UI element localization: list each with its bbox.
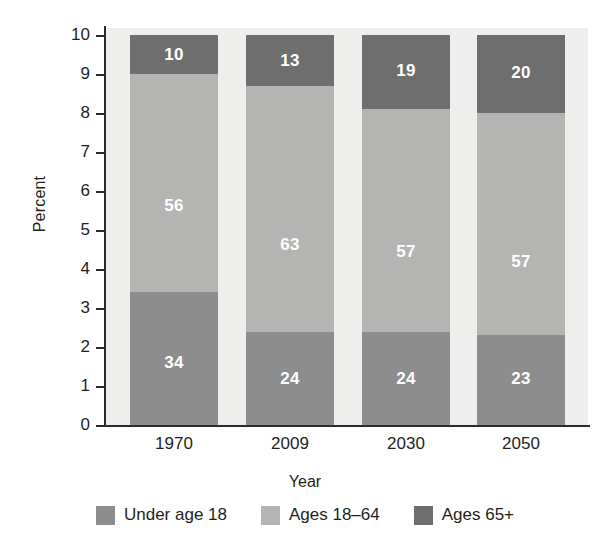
bar-value-label-ages18to64: 56	[130, 197, 218, 214]
bar-segment-under18[interactable]: 34	[130, 292, 218, 425]
y-tick-mark-10	[96, 35, 105, 37]
chart-legend: Under age 18 Ages 18–64 Ages 65+	[0, 505, 610, 525]
bar-segment-ages18to64[interactable]: 57	[362, 109, 450, 332]
y-tick-label-9: 9	[50, 65, 90, 82]
x-tick-label-1970: 1970	[114, 434, 234, 454]
bar-1970[interactable]: 10 56 34	[130, 35, 218, 425]
legend-label-ages-18-64: Ages 18–64	[289, 505, 380, 525]
bar-value-label-under18: 23	[477, 370, 565, 387]
y-tick-mark-9	[96, 74, 105, 76]
x-tick-label-2030: 2030	[346, 434, 466, 454]
y-tick-mark-6	[96, 191, 105, 193]
legend-swatch-icon-under-age-18	[96, 506, 115, 525]
bar-segment-ages65plus[interactable]: 13	[246, 35, 334, 86]
bar-segment-under18[interactable]: 23	[477, 335, 565, 425]
bar-value-label-ages65plus: 10	[130, 46, 218, 63]
x-tick-label-2009: 2009	[230, 434, 350, 454]
y-tick-label-8: 8	[50, 104, 90, 121]
stacked-bar-chart: Percent 10 9 8 7 6 5 4 3 2 1 0 10 56 34	[0, 0, 610, 543]
legend-swatch-icon-ages-18-64	[261, 506, 280, 525]
y-tick-mark-5	[96, 230, 105, 232]
y-tick-mark-1	[96, 386, 105, 388]
y-tick-label-3: 3	[50, 299, 90, 316]
y-tick-mark-3	[96, 308, 105, 310]
bar-2030[interactable]: 19 57 24	[362, 35, 450, 425]
y-axis-line	[104, 26, 106, 427]
y-axis-title: Percent	[31, 164, 49, 244]
legend-swatch-icon-ages-65-plus	[414, 506, 433, 525]
bar-segment-ages65plus[interactable]: 20	[477, 35, 565, 113]
bar-segment-under18[interactable]: 24	[246, 332, 334, 425]
legend-label-ages-65-plus: Ages 65+	[442, 505, 514, 525]
bar-value-label-under18: 24	[362, 370, 450, 387]
y-tick-mark-8	[96, 113, 105, 115]
y-tick-label-10: 10	[50, 26, 90, 43]
y-tick-label-7: 7	[50, 143, 90, 160]
bar-segment-ages65plus[interactable]: 10	[130, 35, 218, 74]
y-tick-label-4: 4	[50, 260, 90, 277]
bar-value-label-ages65plus: 19	[362, 62, 450, 79]
bar-value-label-under18: 24	[246, 370, 334, 387]
y-tick-mark-2	[96, 347, 105, 349]
y-tick-label-2: 2	[50, 338, 90, 355]
bar-segment-ages18to64[interactable]: 56	[130, 74, 218, 292]
bar-segment-under18[interactable]: 24	[362, 332, 450, 425]
y-tick-mark-4	[96, 269, 105, 271]
bar-2009[interactable]: 13 63 24	[246, 35, 334, 425]
bar-value-label-ages18to64: 63	[246, 236, 334, 253]
legend-label-under-age-18: Under age 18	[124, 505, 227, 525]
legend-item-ages-65-plus[interactable]: Ages 65+	[414, 505, 514, 525]
x-tick-label-2050: 2050	[461, 434, 581, 454]
bar-value-label-under18: 34	[130, 354, 218, 371]
x-axis-title: Year	[0, 473, 610, 491]
bar-value-label-ages65plus: 13	[246, 52, 334, 69]
y-tick-label-1: 1	[50, 377, 90, 394]
legend-item-ages-18-64[interactable]: Ages 18–64	[261, 505, 380, 525]
bar-segment-ages65plus[interactable]: 19	[362, 35, 450, 109]
legend-item-under-age-18[interactable]: Under age 18	[96, 505, 227, 525]
x-axis-line	[104, 425, 590, 427]
bar-value-label-ages65plus: 20	[477, 64, 565, 81]
bar-segment-ages18to64[interactable]: 57	[477, 113, 565, 335]
y-tick-label-0: 0	[50, 416, 90, 433]
bar-value-label-ages18to64: 57	[477, 253, 565, 270]
bar-2050[interactable]: 20 57 23	[477, 35, 565, 425]
y-tick-label-5: 5	[50, 221, 90, 238]
y-tick-mark-7	[96, 152, 105, 154]
bar-segment-ages18to64[interactable]: 63	[246, 86, 334, 332]
y-tick-label-6: 6	[50, 182, 90, 199]
bar-value-label-ages18to64: 57	[362, 243, 450, 260]
y-tick-mark-0	[96, 425, 105, 427]
